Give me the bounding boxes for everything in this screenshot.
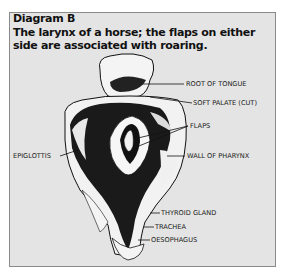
label-wall-of-pharynx: WALL OF PHARYNX (187, 152, 249, 160)
label-epiglottis: EPIGLOTTIS (13, 152, 51, 160)
label-soft-palate: SOFT PALATE (CUT) (193, 99, 257, 107)
label-root-of-tongue: ROOT OF TONGUE (186, 80, 246, 88)
label-flaps: FLAPS (190, 122, 210, 130)
label-oesophagus: OESOPHAGUS (151, 236, 197, 244)
label-trachea: TRACHEA (155, 223, 186, 231)
label-thyroid-gland: THYROID GLAND (161, 209, 216, 217)
larynx-illustration (0, 0, 287, 277)
